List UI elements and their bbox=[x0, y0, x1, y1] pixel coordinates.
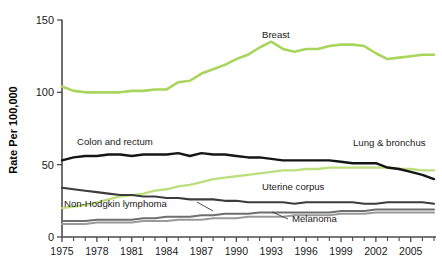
series-label-uterine: Uterine corpus bbox=[262, 181, 325, 192]
x-axis-tick-label: 2002 bbox=[364, 245, 388, 257]
y-axis-tick-label: 150 bbox=[36, 14, 54, 26]
series-label-nhl: Non-Hodgkin lymphoma bbox=[64, 198, 168, 209]
series-label-colon: Colon and rectum bbox=[77, 136, 153, 147]
x-axis-tick-label: 1987 bbox=[190, 245, 214, 257]
x-axis-tick-label: 1999 bbox=[329, 245, 353, 257]
cancer-incidence-line-chart: 050100150 197519781981198419871990199319… bbox=[0, 0, 442, 264]
x-axis-tick-label: 1993 bbox=[260, 245, 284, 257]
series-label-lung: Lung & bronchus bbox=[353, 137, 426, 148]
x-axis-tick-label: 1984 bbox=[155, 245, 179, 257]
y-axis-tick-label: 0 bbox=[48, 231, 54, 243]
series-label-melanoma: Melanoma bbox=[292, 213, 337, 224]
y-axis-tick-label: 100 bbox=[36, 86, 54, 98]
x-axis-tick-label: 2005 bbox=[399, 245, 423, 257]
x-axis-tick-label: 1981 bbox=[120, 245, 144, 257]
x-axis-tick-label: 1996 bbox=[294, 245, 318, 257]
x-axis-tick-label: 1978 bbox=[85, 245, 109, 257]
y-axis-tick-label: 50 bbox=[42, 159, 54, 171]
x-axis-tick-label: 1975 bbox=[50, 245, 74, 257]
chart-canvas: 050100150 197519781981198419871990199319… bbox=[0, 0, 442, 264]
y-axis-title: Rate Per 100,000 bbox=[7, 86, 19, 173]
x-axis-tick-label: 1990 bbox=[225, 245, 249, 257]
series-label-breast: Breast bbox=[262, 29, 290, 40]
